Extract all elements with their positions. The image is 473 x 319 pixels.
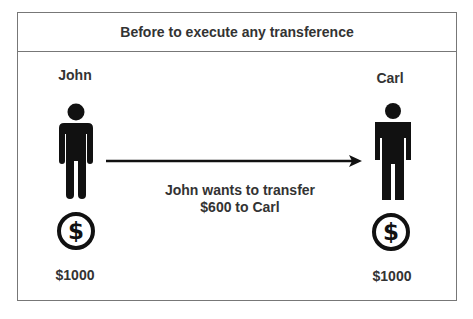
sender-name: John — [50, 67, 100, 83]
transfer-caption: John wants to transfer $600 to Carl — [140, 182, 340, 216]
svg-text:$: $ — [383, 219, 399, 245]
sender-balance: $1000 — [45, 267, 105, 283]
arrow-right-icon — [104, 154, 366, 168]
transfer-caption-line2: $600 to Carl — [140, 199, 340, 216]
diagram-title: Before to execute any transference — [18, 13, 456, 52]
sender-dollar-coin-icon: $ — [56, 211, 96, 251]
receiver-name: Carl — [365, 70, 415, 86]
receiver-balance: $1000 — [362, 268, 422, 284]
transfer-caption-line1: John wants to transfer — [140, 182, 340, 199]
sender-person-icon — [56, 103, 96, 199]
receiver-dollar-coin-icon: $ — [371, 212, 411, 252]
receiver-person-icon — [374, 102, 412, 200]
svg-text:$: $ — [68, 218, 84, 244]
